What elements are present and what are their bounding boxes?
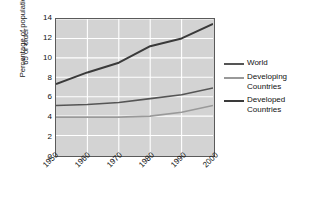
x-tick-label: 1950 [41, 150, 60, 169]
legend-item: Developed Countries [224, 95, 312, 115]
x-tick-label: 1980 [137, 150, 156, 169]
x-tick-label: 2000 [201, 150, 220, 169]
x-tick-label: 1970 [105, 150, 124, 169]
legend-label: Developed Countries [247, 95, 312, 115]
legend-line-swatch [224, 77, 244, 79]
x-tick-label: 1990 [169, 150, 188, 169]
chart-legend: WorldDeveloping CountriesDeveloped Count… [224, 58, 312, 118]
legend-line-swatch [224, 100, 244, 102]
x-tick-label: 1960 [73, 150, 92, 169]
legend-label: Developing Countries [247, 72, 312, 92]
legend-label: World [247, 58, 312, 68]
legend-item: Developing Countries [224, 72, 312, 92]
legend-line-swatch [224, 63, 244, 65]
legend-item: World [224, 58, 312, 69]
line-chart: Percentage of population 65 or older 024… [0, 0, 314, 202]
